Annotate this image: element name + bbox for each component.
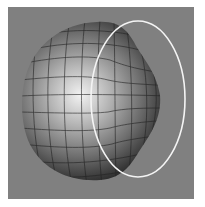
deformed-sphere-render (0, 0, 205, 207)
